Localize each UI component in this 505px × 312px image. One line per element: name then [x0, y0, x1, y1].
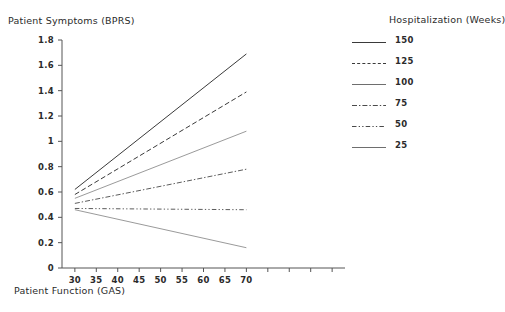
series-line-125: [75, 92, 247, 195]
legend-item-label: 125: [395, 56, 414, 66]
legend-item-label: 100: [395, 77, 414, 87]
legend-item-label: 75: [395, 98, 407, 108]
legend-item-50[interactable]: 50: [352, 117, 482, 138]
legend-item-25[interactable]: 25: [352, 138, 482, 159]
legend-line-swatch: [352, 147, 386, 148]
y-tick-label: 0.8: [20, 162, 54, 172]
legend-item-label: 25: [395, 140, 407, 150]
legend-item-label: 150: [395, 35, 414, 45]
legend-item-100[interactable]: 100: [352, 75, 482, 96]
y-tick-label: 0: [20, 263, 54, 273]
y-tick-label: 1.6: [20, 60, 54, 70]
legend-item-label: 50: [395, 119, 407, 129]
y-tick-label: 0.4: [20, 212, 54, 222]
series-line-50: [75, 208, 247, 209]
y-tick-label: 1: [20, 136, 54, 146]
y-tick-label: 0.2: [20, 238, 54, 248]
y-tick-label: 1.2: [20, 111, 54, 121]
legend-line-swatch: [352, 84, 386, 85]
legend-item-75[interactable]: 75: [352, 96, 482, 117]
legend-line-swatch: [352, 42, 386, 43]
y-tick-label: 1.4: [20, 86, 54, 96]
y-tick-label: 1.8: [20, 35, 54, 45]
series-line-25: [75, 210, 247, 248]
x-tick-label: 70: [230, 275, 262, 285]
series-line-100: [75, 131, 247, 198]
chart-legend: 150125100755025: [352, 33, 482, 159]
series-line-75: [75, 169, 247, 203]
legend-item-125[interactable]: 125: [352, 54, 482, 75]
series-line-150: [75, 54, 247, 190]
y-tick-label: 0.6: [20, 187, 54, 197]
legend-line-swatch: [352, 63, 386, 64]
legend-item-150[interactable]: 150: [352, 33, 482, 54]
